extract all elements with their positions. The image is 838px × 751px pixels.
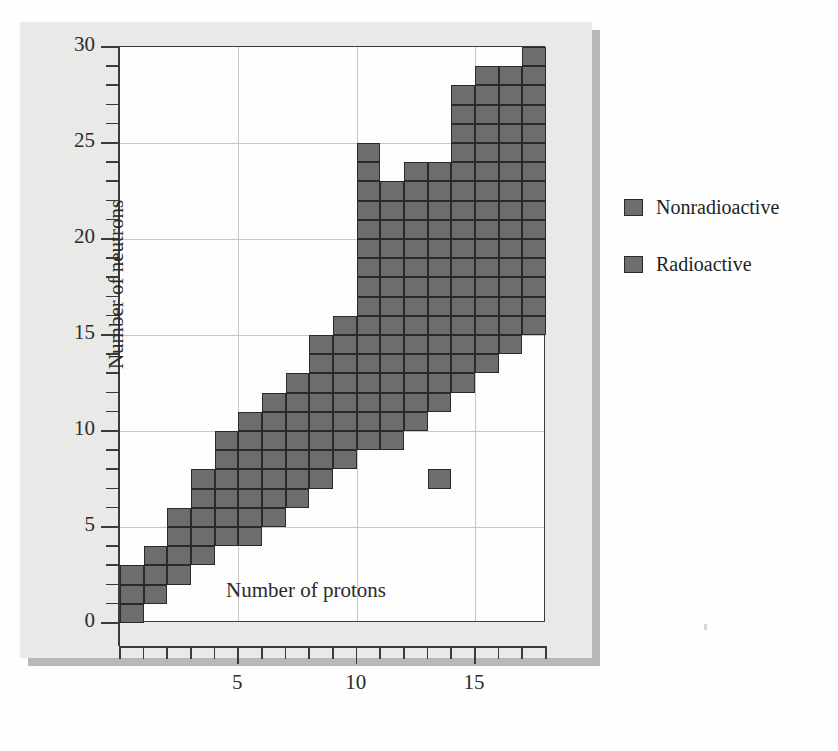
nuclide-cell — [380, 239, 404, 258]
y-tick-major — [101, 430, 119, 432]
nuclide-cell — [357, 373, 381, 392]
nuclide-cell — [286, 373, 310, 392]
nuclide-cell — [380, 181, 404, 200]
nuclide-cell — [404, 316, 428, 335]
x-tick-minor — [521, 647, 523, 659]
x-tick-minor — [285, 647, 287, 659]
x-axis-title: Number of protons — [20, 578, 592, 603]
nuclide-cell — [475, 220, 499, 239]
nuclide-cell — [428, 297, 452, 316]
nuclide-cell — [475, 239, 499, 258]
nuclide-cell — [475, 258, 499, 277]
x-tick-minor — [498, 647, 500, 659]
nuclide-cell — [475, 143, 499, 162]
nuclide-cell — [428, 469, 452, 488]
nuclide-cell — [238, 450, 262, 469]
nuclide-cell — [499, 258, 523, 277]
nuclide-cell — [262, 469, 286, 488]
legend: Nonradioactive Radioactive — [624, 196, 830, 310]
nuclide-cell — [475, 181, 499, 200]
y-tick-minor — [106, 603, 119, 605]
nuclide-cell — [428, 393, 452, 412]
nuclide-cell — [333, 316, 357, 335]
legend-item-radioactive[interactable]: Radioactive — [624, 253, 830, 276]
nuclide-cell — [238, 527, 262, 546]
nuclide-cell — [404, 412, 428, 431]
nuclide-cell — [499, 143, 523, 162]
nuclide-cell — [428, 239, 452, 258]
nuclide-cell — [262, 393, 286, 412]
nuclide-cell — [309, 393, 333, 412]
nuclide-cell — [357, 220, 381, 239]
nuclide-cell — [475, 277, 499, 296]
x-tick-minor — [379, 647, 381, 659]
nuclide-cell — [215, 469, 239, 488]
nuclide-cell — [262, 412, 286, 431]
nuclide-cell — [522, 297, 546, 316]
y-tick-label: 30 — [49, 32, 95, 57]
nuclide-cell — [475, 201, 499, 220]
nuclide-cell — [499, 201, 523, 220]
nuclide-cell — [238, 508, 262, 527]
nuclide-cell — [451, 143, 475, 162]
legend-swatch-nonradioactive-icon — [624, 199, 643, 216]
nuclide-cell — [357, 354, 381, 373]
nuclide-cell — [522, 162, 546, 181]
nuclide-cell — [451, 181, 475, 200]
nuclide-cell — [522, 258, 546, 277]
nuclide-cell — [191, 546, 215, 565]
nuclide-cell — [404, 220, 428, 239]
nuclide-cell — [167, 546, 191, 565]
nuclide-cell — [286, 489, 310, 508]
nuclide-cell — [451, 124, 475, 143]
nuclide-cell — [191, 508, 215, 527]
legend-label-nonradioactive: Nonradioactive — [656, 196, 779, 219]
legend-item-nonradioactive[interactable]: Nonradioactive — [624, 196, 830, 219]
nuclide-cell — [262, 450, 286, 469]
nuclide-cell — [357, 412, 381, 431]
nuclide-cell — [404, 201, 428, 220]
y-tick-minor — [106, 84, 119, 86]
x-tick-major — [474, 647, 476, 664]
nuclide-cell — [238, 412, 262, 431]
y-tick-major — [101, 526, 119, 528]
nuclide-cell — [522, 239, 546, 258]
nuclide-cell-layer — [120, 47, 544, 621]
nuclide-cell — [522, 201, 546, 220]
nuclide-cell — [522, 105, 546, 124]
nuclide-cell — [451, 277, 475, 296]
nuclide-cell — [475, 335, 499, 354]
nuclide-cell — [475, 316, 499, 335]
nuclide-cell — [333, 373, 357, 392]
nuclide-cell — [404, 239, 428, 258]
nuclide-cell — [238, 431, 262, 450]
nuclide-cell — [120, 604, 144, 623]
nuclide-cell — [499, 66, 523, 85]
nuclide-cell — [428, 181, 452, 200]
nuclide-cell — [499, 277, 523, 296]
nuclide-cell — [404, 335, 428, 354]
nuclide-cell — [451, 201, 475, 220]
nuclide-cell — [451, 373, 475, 392]
nuclide-cell — [499, 124, 523, 143]
plot-area — [119, 46, 545, 622]
nuclide-cell — [428, 373, 452, 392]
y-tick-minor — [106, 449, 119, 451]
nuclide-cell — [404, 181, 428, 200]
x-tick-minor — [308, 647, 310, 659]
nuclide-cell — [309, 431, 333, 450]
nuclide-cell — [522, 47, 546, 66]
legend-label-radioactive: Radioactive — [656, 253, 752, 276]
nuclide-cell — [286, 412, 310, 431]
nuclide-cell — [262, 489, 286, 508]
nuclide-cell — [451, 85, 475, 104]
x-tick-major — [356, 647, 358, 664]
nuclide-cell — [499, 220, 523, 239]
y-tick-minor — [106, 468, 119, 470]
y-tick-label: 0 — [49, 608, 95, 633]
nuclide-cell — [357, 297, 381, 316]
nuclide-cell — [475, 354, 499, 373]
x-tick-minor — [166, 647, 168, 659]
nuclide-cell — [357, 277, 381, 296]
nuclide-cell — [286, 431, 310, 450]
